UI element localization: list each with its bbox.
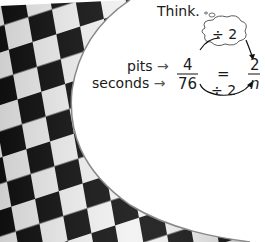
think-label: Think.	[157, 4, 200, 18]
right-denominator: n	[250, 77, 260, 92]
arrow-icon: →	[157, 58, 169, 74]
equals-sign: =	[217, 67, 230, 82]
arrow-icon: →	[154, 75, 166, 91]
left-numerator: 4	[183, 58, 193, 73]
left-denominator: 76	[178, 77, 197, 92]
illustration: Think. ÷ 2 pits → seconds → 4 76 = 2 n ÷…	[0, 0, 265, 242]
top-operation: ÷ 2	[212, 27, 237, 41]
seconds-text: seconds	[92, 75, 149, 91]
label-pits: pits →	[127, 59, 169, 73]
pits-text: pits	[127, 58, 153, 74]
right-numerator: 2	[250, 58, 260, 73]
label-seconds: seconds →	[92, 76, 165, 90]
bottom-operation: ÷ 2	[211, 83, 236, 97]
